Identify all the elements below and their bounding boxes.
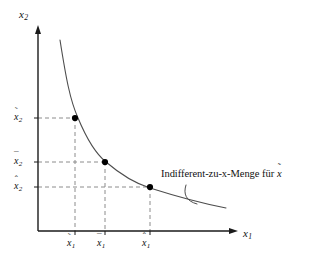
x-tick-1-base: x [67,238,71,248]
y-tick-label-x-tilde-2: x ˜ 2 [14,112,22,124]
x-tick-label-x-bar-1: x ¯ 1 [97,238,105,250]
annotation-symbol-base: x [277,169,282,180]
x-tick-1-accented-glyph: x ˜ [67,238,71,248]
y-tick-1-accented-glyph: x ˜ [14,112,18,122]
annotation-symbol: x ˜ [277,169,282,180]
x-tick-label-x-hat-1: x ˆ 1 [142,238,150,250]
y-axis-label-base: x [19,8,24,20]
x-axis-label-subscript: 1 [248,233,252,241]
x-axis-arrowhead [229,228,238,234]
y-tick-2-accented-glyph: x ¯ [14,156,18,166]
y-tick-1-subscript: 2 [19,117,23,124]
x-tick-label-x-tilde-1: x ˜ 1 [67,238,75,250]
x-tick-2-subscript: 1 [102,243,106,250]
x-axis-label-base: x [243,227,248,239]
tick-marks [34,118,150,235]
bundle-points [72,115,153,190]
bundle-point-x-hat [147,184,153,190]
y-tick-1-base: x [14,112,18,122]
indifference-curve [60,40,226,208]
indifference-curve-figure: x2 x1 x ˜ 2 x ¯ 2 x ˆ 2 x ˜ 1 x ¯ 1 [0,0,326,264]
y-axis-label: x2 [19,9,28,22]
y-tick-3-base: x [14,181,18,191]
bundle-point-x-bar [102,159,108,165]
x-tick-2-accented-glyph: x ¯ [97,238,101,248]
indifference-set-annotation: Indifferent-zu-x-Menge für x ˜ [161,169,282,180]
figure-canvas [0,0,326,264]
y-tick-2-subscript: 2 [19,161,23,168]
y-axis-arrowhead [35,25,41,34]
y-tick-3-accented-glyph: x ˆ [14,181,18,191]
guide-lines [38,118,150,231]
x-tick-3-subscript: 1 [147,243,151,250]
x-tick-2-base: x [97,238,101,248]
y-tick-label-x-bar-2: x ¯ 2 [14,156,22,168]
y-tick-3-subscript: 2 [19,186,23,193]
bundle-point-x-tilde [72,115,78,121]
x-tick-3-accented-glyph: x ˆ [142,238,146,248]
y-tick-2-base: x [14,156,18,166]
x-tick-3-base: x [142,238,146,248]
annotation-text: Indifferent-zu-x-Menge für [161,168,274,179]
axes [35,25,238,234]
y-axis-label-subscript: 2 [24,14,28,22]
x-tick-1-subscript: 1 [72,243,76,250]
y-tick-label-x-hat-2: x ˆ 2 [14,181,22,193]
x-axis-label: x1 [243,228,252,241]
